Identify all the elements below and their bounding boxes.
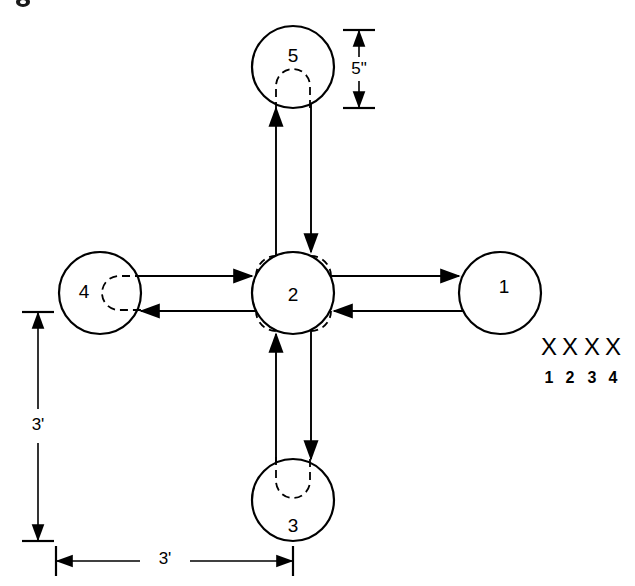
station-2-label: 2 <box>288 284 299 305</box>
dimension-3ft-horizontal: 3' <box>56 546 293 576</box>
station-node-5[interactable]: 5 <box>252 26 334 110</box>
legend-mark-2: X <box>562 333 578 360</box>
figure-page: 5 4 1 3 <box>0 0 635 586</box>
page-crop-artifact <box>16 0 30 7</box>
station-4-circle[interactable] <box>59 252 141 334</box>
dimension-5in: 5" <box>343 30 375 108</box>
legend-mark-3: X <box>584 333 600 360</box>
station-node-3[interactable]: 3 <box>252 457 334 541</box>
station-1-label: 1 <box>499 276 510 297</box>
dimension-3ft-vertical: 3' <box>22 312 54 541</box>
legend-number-2: 2 <box>566 369 575 386</box>
layout-diagram: 5 4 1 3 <box>0 0 635 586</box>
station-node-1[interactable]: 1 <box>459 252 541 334</box>
legend-numbers-row: 1 2 3 4 <box>545 369 618 386</box>
station-4-label: 4 <box>79 281 90 302</box>
legend-number-4: 4 <box>609 369 618 386</box>
legend-number-3: 3 <box>588 369 597 386</box>
station-node-2[interactable]: 2 <box>252 252 334 334</box>
station-5-circle[interactable] <box>252 26 334 108</box>
dimension-5in-label: 5" <box>351 59 367 78</box>
legend-number-1: 1 <box>545 369 554 386</box>
station-3-label: 3 <box>288 515 299 536</box>
dimension-3ft-horizontal-label: 3' <box>159 549 172 568</box>
legend-marks-row: X X X X <box>541 333 621 360</box>
legend-mark-4: X <box>605 333 621 360</box>
dimension-3ft-vertical-label: 3' <box>32 415 45 434</box>
legend-mark-1: X <box>541 333 557 360</box>
station-node-4[interactable]: 4 <box>59 252 143 334</box>
station-5-label: 5 <box>288 45 299 66</box>
